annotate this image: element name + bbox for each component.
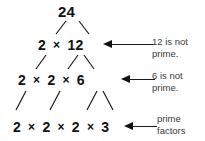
annotation-line: prime	[157, 113, 186, 125]
factor-term: 2	[42, 120, 50, 134]
factor-term: 2	[18, 73, 26, 87]
factor-tree-diagram: 24 2 × 12 2 × 2 × 6 2 × 2 × 2 × 3 12 is …	[0, 0, 205, 141]
annotation-line: factors	[157, 125, 186, 137]
factor-row-4: 2 × 2 × 2 × 3	[13, 120, 109, 134]
multiplication-sign: ×	[30, 74, 43, 86]
multiplication-sign: ×	[50, 39, 63, 51]
arrow-shaft	[110, 44, 154, 45]
multiplication-sign: ×	[25, 121, 38, 133]
annotation-line: prime.	[152, 48, 188, 60]
factor-term: 12	[67, 38, 83, 52]
branch-right-2	[84, 55, 94, 69]
factor-row-1: 24	[58, 4, 75, 19]
factor-term: 24	[58, 4, 75, 19]
branch-left-3	[87, 91, 97, 110]
branch-right-3	[103, 91, 113, 110]
annotation-row-4: prime factors	[157, 113, 186, 136]
factor-row-3: 2 × 2 × 6	[18, 73, 85, 87]
branch-left-1	[56, 21, 66, 34]
multiplication-sign: ×	[84, 121, 97, 133]
multiplication-sign: ×	[55, 121, 68, 133]
factor-term: 2	[47, 73, 55, 87]
factor-term: 2	[13, 120, 21, 134]
multiplication-sign: ×	[60, 74, 73, 86]
annotation-line: 12 is not	[152, 36, 188, 48]
factor-term: 2	[72, 120, 80, 134]
factor-term: 6	[77, 73, 85, 87]
annotation-line: 6 is not	[152, 70, 183, 82]
annotation-row-3: 6 is not prime.	[152, 70, 183, 93]
carry-down-2	[36, 55, 46, 69]
carry-down-3a	[16, 91, 26, 110]
annotation-row-2: 12 is not prime.	[152, 36, 188, 59]
annotation-line: prime.	[152, 82, 183, 94]
factor-term: 3	[101, 120, 109, 134]
arrow-shaft	[128, 79, 155, 80]
branch-left-2	[68, 55, 78, 69]
carry-down-3b	[50, 91, 60, 110]
branch-right-1	[79, 21, 89, 34]
factor-term: 2	[38, 38, 46, 52]
arrow-shaft	[131, 126, 157, 127]
factor-row-2: 2 × 12	[38, 38, 83, 52]
